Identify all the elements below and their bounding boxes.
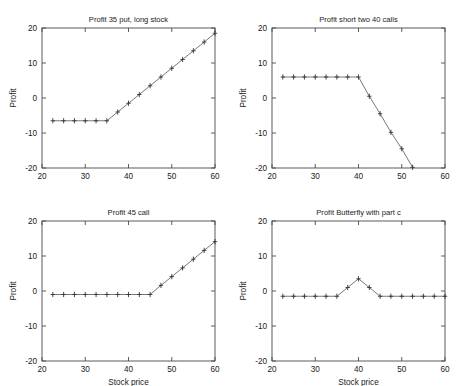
y-tick-label: 10	[258, 252, 268, 261]
data-point-marker	[148, 292, 152, 297]
data-series-line	[283, 77, 413, 167]
y-tick-label: -20	[25, 357, 37, 366]
x-tick-label: 30	[81, 365, 91, 374]
y-axis-label: Profit	[9, 88, 18, 108]
x-tick-label: 40	[354, 365, 364, 374]
data-point-marker	[313, 294, 317, 299]
data-point-marker	[137, 292, 141, 297]
y-tick-label: -10	[255, 322, 267, 331]
x-tick-label: 60	[210, 365, 220, 374]
y-tick-label: 20	[28, 217, 38, 226]
data-point-marker	[126, 292, 130, 297]
x-tick-label: 50	[397, 172, 407, 181]
data-point-marker	[180, 57, 184, 62]
y-tick-label: -10	[255, 129, 267, 138]
data-point-marker	[105, 118, 109, 123]
data-point-marker	[281, 294, 285, 299]
data-point-marker	[291, 74, 295, 79]
data-point-marker	[94, 292, 98, 297]
data-point-marker	[61, 292, 65, 297]
data-point-marker	[367, 285, 371, 290]
axes-box	[272, 28, 445, 168]
y-tick-label: 20	[258, 217, 268, 226]
y-tick-label: 0	[262, 94, 267, 103]
figure-canvas: 2030405060-20-1001020Profit 35 put, long…	[0, 0, 460, 386]
data-point-marker	[83, 118, 87, 123]
y-tick-label: -20	[255, 357, 267, 366]
subplot-profit-35-put-long-stock: 2030405060-20-1001020Profit 35 put, long…	[0, 0, 230, 193]
data-point-marker	[213, 239, 217, 244]
plot-svg: 2030405060-20-1001020Profit 45 callProfi…	[0, 193, 230, 386]
y-axis-label: Profit	[239, 88, 248, 108]
axes-box	[42, 28, 215, 168]
y-tick-label: -10	[25, 322, 37, 331]
data-point-marker	[51, 292, 55, 297]
plot-svg: 2030405060-20-1001020Profit short two 40…	[230, 0, 460, 193]
data-point-marker	[126, 101, 130, 106]
y-axis-label: Profit	[9, 281, 18, 301]
data-point-marker	[421, 294, 425, 299]
x-tick-label: 30	[311, 172, 321, 181]
plot-title: Profit 45 call	[108, 208, 150, 217]
data-point-marker	[378, 294, 382, 299]
data-series-line	[53, 242, 215, 295]
data-point-marker	[180, 265, 184, 270]
data-point-marker	[356, 74, 360, 79]
data-series-line	[53, 33, 215, 121]
x-tick-label: 20	[267, 172, 277, 181]
data-point-marker	[191, 257, 195, 262]
data-point-marker	[324, 74, 328, 79]
data-point-marker	[202, 248, 206, 253]
y-axis-label: Profit	[239, 281, 248, 301]
data-point-marker	[443, 294, 447, 299]
axes-box	[272, 221, 445, 361]
data-point-marker	[191, 48, 195, 53]
plot-title: Profit short two 40 calls	[319, 15, 398, 24]
data-point-marker	[389, 294, 393, 299]
y-tick-label: -20	[255, 164, 267, 173]
data-point-marker	[72, 118, 76, 123]
data-point-marker	[202, 39, 206, 44]
x-tick-label: 20	[37, 365, 47, 374]
data-point-marker	[213, 31, 217, 36]
subplot-profit-short-two-40-calls: 2030405060-20-1001020Profit short two 40…	[230, 0, 460, 193]
data-point-marker	[410, 294, 414, 299]
x-axis-label: Stock price	[338, 378, 379, 386]
data-point-marker	[51, 118, 55, 123]
data-point-marker	[345, 74, 349, 79]
data-point-marker	[345, 285, 349, 290]
x-tick-label: 60	[440, 172, 450, 181]
data-point-marker	[170, 66, 174, 71]
x-tick-label: 50	[397, 365, 407, 374]
x-tick-label: 30	[81, 172, 91, 181]
data-point-marker	[432, 294, 436, 299]
plot-title: Profit Butterfly with part c	[316, 208, 401, 217]
data-point-marker	[302, 294, 306, 299]
x-tick-label: 40	[124, 172, 134, 181]
data-point-marker	[83, 292, 87, 297]
axes-box	[42, 221, 215, 361]
data-point-marker	[72, 292, 76, 297]
y-tick-label: 10	[28, 59, 38, 68]
data-point-marker	[115, 109, 119, 114]
data-point-marker	[335, 294, 339, 299]
x-tick-label: 60	[210, 172, 220, 181]
data-series-line	[283, 279, 445, 297]
data-point-marker	[159, 74, 163, 79]
plot-svg: 2030405060-20-1001020Profit 35 put, long…	[0, 0, 230, 193]
x-tick-label: 20	[267, 365, 277, 374]
x-tick-label: 50	[167, 365, 177, 374]
data-point-marker	[281, 74, 285, 79]
plot-title: Profit 35 put, long stock	[89, 15, 169, 24]
data-point-marker	[302, 74, 306, 79]
y-tick-label: 20	[28, 24, 38, 33]
data-point-marker	[291, 294, 295, 299]
data-point-marker	[94, 118, 98, 123]
data-point-marker	[324, 294, 328, 299]
data-point-marker	[313, 74, 317, 79]
y-tick-label: 0	[32, 94, 37, 103]
subplot-profit-butterfly-with-part-c: 2030405060-20-1001020Profit Butterfly wi…	[230, 193, 460, 386]
x-axis-label: Stock price	[108, 378, 149, 386]
x-tick-label: 60	[440, 365, 450, 374]
y-tick-label: 20	[258, 24, 268, 33]
